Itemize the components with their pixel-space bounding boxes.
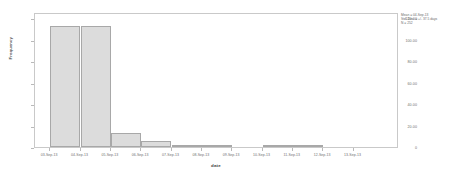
- y-tick-mark: [31, 105, 34, 106]
- y-tick-mark: [31, 62, 34, 63]
- bars-layer: [35, 14, 397, 147]
- y-tick-label: 60.00: [408, 82, 418, 86]
- y-tick-label: 40.00: [408, 103, 418, 107]
- x-axis: date 03-Sep-1304-Sep-1305-Sep-1306-Sep-1…: [34, 148, 398, 181]
- x-tick-mark: [353, 148, 354, 151]
- histogram-bar: [50, 26, 80, 147]
- x-tick-label: 12-Sep-13: [314, 153, 331, 157]
- plot-area: [34, 13, 398, 148]
- x-tick-mark: [201, 148, 202, 151]
- x-axis-title: date: [34, 163, 398, 168]
- x-tick-mark: [322, 148, 323, 151]
- x-tick-mark: [171, 148, 172, 151]
- histogram-bar: [111, 133, 141, 147]
- x-tick-label: 07-Sep-13: [162, 153, 179, 157]
- x-tick-label: 13-Sep-13: [344, 153, 361, 157]
- y-tick-mark: [31, 84, 34, 85]
- x-tick-mark: [231, 148, 232, 151]
- x-tick-label: 11-Sep-13: [284, 153, 301, 157]
- annotation-n: N = 252: [401, 22, 451, 26]
- x-tick-label: 05-Sep-13: [101, 153, 118, 157]
- x-tick-mark: [262, 148, 263, 151]
- x-tick-label: 03-Sep-13: [41, 153, 58, 157]
- x-tick-label: 10-Sep-13: [253, 153, 270, 157]
- y-tick-label: 100.00: [405, 39, 417, 43]
- histogram-bar: [293, 145, 323, 147]
- y-tick-mark: [31, 19, 34, 20]
- x-tick-label: 06-Sep-13: [132, 153, 149, 157]
- y-tick-mark: [31, 127, 34, 128]
- y-axis-title: Frequency: [8, 50, 13, 60]
- x-tick-mark: [49, 148, 50, 151]
- y-tick-label: 20.00: [408, 125, 418, 129]
- y-axis: Frequency: [0, 0, 34, 181]
- y-tick-label: 80.00: [408, 60, 418, 64]
- statistics-annotation: Mean = 04-Sep-13 Std. Dev. = +/- 37.5 da…: [401, 14, 451, 26]
- histogram-bar: [202, 145, 232, 147]
- x-tick-mark: [292, 148, 293, 151]
- histogram-bar: [263, 145, 293, 147]
- x-tick-mark: [140, 148, 141, 151]
- histogram-bar: [141, 141, 171, 147]
- x-tick-label: 09-Sep-13: [223, 153, 240, 157]
- histogram-bar: [172, 145, 202, 147]
- histogram-bar: [81, 26, 111, 147]
- histogram-chart: Frequency 020.0040.0060.0080.00100.00120…: [0, 0, 455, 181]
- x-tick-label: 04-Sep-13: [71, 153, 88, 157]
- x-tick-mark: [110, 148, 111, 151]
- x-tick-mark: [80, 148, 81, 151]
- x-tick-label: 08-Sep-13: [192, 153, 209, 157]
- y-tick-mark: [31, 41, 34, 42]
- y-tick-label: 0: [415, 146, 417, 150]
